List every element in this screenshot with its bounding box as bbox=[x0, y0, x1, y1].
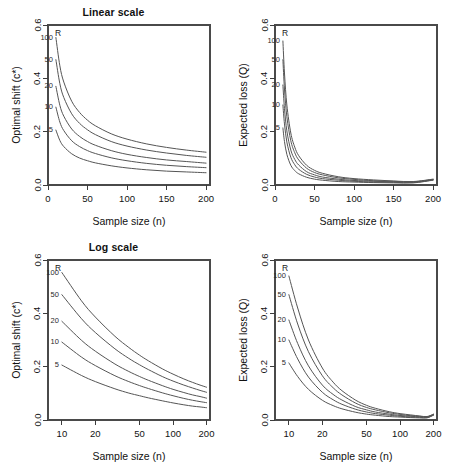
series-label-R-10: 10 bbox=[272, 100, 280, 109]
curve-R-100 bbox=[283, 41, 433, 182]
series-label-R-20: 20 bbox=[278, 315, 286, 324]
curve-R-20 bbox=[62, 321, 207, 398]
y-axis-title: Optimal shift (c*) bbox=[10, 66, 22, 144]
x-axis-title: Sample size (n) bbox=[93, 215, 166, 227]
y-axis-title: Expected loss (Q) bbox=[237, 298, 249, 381]
plot-svg-linear-expected-loss: 0501001502000.00.20.40.6Sample size (n)E… bbox=[227, 0, 454, 235]
legend-title-R: R bbox=[282, 28, 288, 38]
y-tick-label: 0.2 bbox=[32, 125, 43, 138]
panel-title-log: Log scale bbox=[0, 241, 227, 253]
y-tick-label: 0.2 bbox=[259, 125, 270, 138]
plot-svg-log-expected-loss: 1020501002000.00.20.40.6Sample size (n)E… bbox=[227, 235, 454, 470]
series-label-R-50: 50 bbox=[51, 290, 59, 299]
curve-R-10 bbox=[56, 107, 206, 168]
x-tick-label: 50 bbox=[309, 193, 320, 204]
series-label-R-50: 50 bbox=[45, 55, 53, 64]
y-tick-label: 0.4 bbox=[32, 72, 43, 85]
series-label-R-10: 10 bbox=[51, 337, 59, 346]
curve-R-5 bbox=[289, 363, 434, 418]
y-axis-title: Expected loss (Q) bbox=[237, 63, 249, 146]
x-axis-title: Sample size (n) bbox=[320, 215, 393, 227]
y-tick-label: 0.4 bbox=[259, 307, 270, 320]
x-tick-label: 20 bbox=[90, 428, 101, 439]
y-tick-label: 0.6 bbox=[259, 18, 270, 31]
series-label-R-5: 5 bbox=[49, 125, 53, 134]
x-tick-label: 50 bbox=[134, 428, 145, 439]
x-tick-label: 150 bbox=[159, 193, 175, 204]
curve-R-5 bbox=[283, 128, 433, 183]
curve-R-100 bbox=[62, 273, 207, 388]
series-label-R-10: 10 bbox=[45, 102, 53, 111]
x-tick-label: 20 bbox=[317, 428, 328, 439]
curve-R-50 bbox=[62, 295, 207, 393]
x-tick-label: 100 bbox=[165, 428, 181, 439]
series-label-R-20: 20 bbox=[272, 80, 280, 89]
x-tick-label: 100 bbox=[346, 193, 362, 204]
series-label-R-100: 100 bbox=[267, 36, 280, 45]
series-label-R-5: 5 bbox=[55, 360, 59, 369]
x-tick-label: 150 bbox=[386, 193, 402, 204]
panel-log-expected-loss: 1020501002000.00.20.40.6Sample size (n)E… bbox=[227, 235, 454, 470]
x-tick-label: 0 bbox=[45, 193, 50, 204]
y-tick-label: 0.6 bbox=[32, 18, 43, 31]
series-label-R-20: 20 bbox=[51, 316, 59, 325]
y-tick-label: 0.0 bbox=[259, 178, 270, 191]
y-axis-title: Optimal shift (c*) bbox=[10, 301, 22, 379]
x-axis-title: Sample size (n) bbox=[320, 450, 393, 462]
panel-linear-expected-loss: 0501001502000.00.20.40.6Sample size (n)E… bbox=[227, 0, 454, 235]
x-tick-label: 200 bbox=[199, 428, 215, 439]
y-tick-label: 0.4 bbox=[259, 72, 270, 85]
x-tick-label: 10 bbox=[57, 428, 68, 439]
x-tick-label: 200 bbox=[425, 193, 441, 204]
curve-R-5 bbox=[62, 365, 207, 408]
x-tick-label: 200 bbox=[426, 428, 442, 439]
y-tick-label: 0.0 bbox=[259, 413, 270, 426]
y-tick-label: 0.2 bbox=[32, 360, 43, 373]
x-axis-title: Sample size (n) bbox=[93, 450, 166, 462]
panel-title-linear: Linear scale bbox=[0, 6, 227, 18]
x-tick-label: 50 bbox=[82, 193, 93, 204]
series-label-R-100: 100 bbox=[40, 33, 53, 42]
series-label-R-20: 20 bbox=[45, 81, 53, 90]
y-tick-label: 0.4 bbox=[32, 307, 43, 320]
legend-title-R: R bbox=[55, 28, 61, 38]
curve-R-50 bbox=[56, 60, 206, 158]
y-tick-label: 0.0 bbox=[32, 413, 43, 426]
y-tick-label: 0.6 bbox=[32, 253, 43, 266]
series-label-R-5: 5 bbox=[282, 358, 286, 367]
x-tick-label: 0 bbox=[272, 193, 277, 204]
panel-log-optimal-shift: Log scale 1020501002000.00.20.40.6Sample… bbox=[0, 235, 227, 470]
series-label-R-100: 100 bbox=[273, 271, 286, 280]
x-tick-label: 10 bbox=[284, 428, 295, 439]
curve-R-20 bbox=[56, 86, 206, 163]
x-tick-label: 100 bbox=[119, 193, 135, 204]
x-tick-label: 200 bbox=[198, 193, 214, 204]
plot-svg-log-optimal-shift: 1020501002000.00.20.40.6Sample size (n)O… bbox=[0, 235, 227, 470]
series-label-R-100: 100 bbox=[46, 268, 59, 277]
y-tick-label: 0.2 bbox=[259, 360, 270, 373]
series-label-R-10: 10 bbox=[278, 335, 286, 344]
y-tick-label: 0.0 bbox=[32, 178, 43, 191]
series-label-R-50: 50 bbox=[272, 55, 280, 64]
x-tick-label: 50 bbox=[361, 428, 372, 439]
curve-R-100 bbox=[289, 276, 434, 417]
y-tick-label: 0.6 bbox=[259, 253, 270, 266]
x-tick-label: 100 bbox=[392, 428, 408, 439]
curve-R-50 bbox=[289, 295, 434, 417]
plot-svg-linear-optimal-shift: 0501001502000.00.20.40.6Sample size (n)O… bbox=[0, 0, 227, 235]
series-label-R-50: 50 bbox=[278, 290, 286, 299]
series-label-R-5: 5 bbox=[276, 123, 280, 132]
figure-canvas: Linear scale 0501001502000.00.20.40.6Sam… bbox=[0, 0, 454, 470]
panel-linear-optimal-shift: Linear scale 0501001502000.00.20.40.6Sam… bbox=[0, 0, 227, 235]
